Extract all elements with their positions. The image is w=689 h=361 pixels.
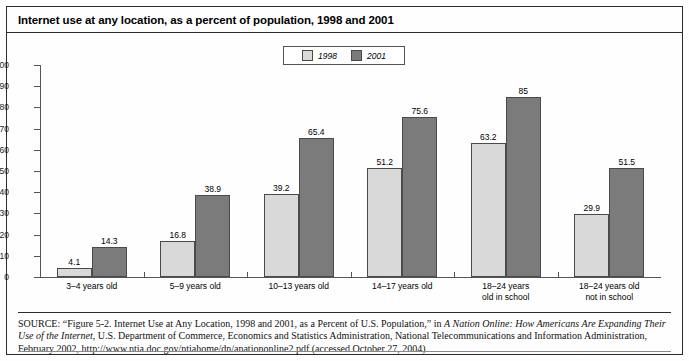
y-axis-tick-label: 30: [0, 208, 9, 218]
bar-value-label: 38.9: [204, 184, 221, 194]
bar-value-label: 63.2: [480, 132, 497, 142]
x-axis-label-5: 18–24 years old in school: [454, 281, 558, 303]
source-label: SOURCE:: [18, 318, 60, 329]
bar-value-label: 65.4: [308, 127, 325, 137]
title-divider: [6, 32, 683, 33]
frame-border-right: [682, 6, 683, 355]
x-axis-label-6: 18–24 years old not in school: [558, 281, 662, 303]
x-axis-group-separator: [144, 272, 145, 277]
legend-item-1998: 1998: [302, 50, 337, 61]
frame-border-top: [6, 6, 683, 7]
chart-legend: 1998 2001: [283, 46, 405, 65]
plot-area: 0102030405060708090100 4.114.316.838.939…: [40, 65, 661, 277]
bar-2001-2: 38.9: [195, 195, 230, 277]
bar-group: 29.951.5: [558, 65, 662, 277]
bar-value-label: 51.5: [618, 157, 635, 167]
bar-1998-5: 63.2: [471, 143, 506, 277]
y-axis-tick-label: 40: [0, 187, 9, 197]
bar-value-label: 16.8: [169, 230, 186, 240]
x-axis-group-separator: [351, 272, 352, 277]
frame-border-left: [6, 6, 7, 355]
bar-2001-1: 14.3: [92, 247, 127, 277]
bar-value-label: 29.9: [583, 203, 600, 213]
y-axis-tick-label: 10: [0, 251, 9, 261]
source-text-part1: “Figure 5-2. Internet Use at Any Locatio…: [60, 318, 444, 329]
legend-item-2001: 2001: [351, 50, 386, 61]
bar-group: 51.275.6: [351, 65, 455, 277]
y-axis-tick-label: 80: [0, 102, 9, 112]
bar-1998-2: 16.8: [160, 241, 195, 277]
bar-1998-1: 4.1: [57, 268, 92, 277]
y-axis-tick-label: 90: [0, 81, 9, 91]
bar-value-label: 85: [519, 86, 528, 96]
x-axis-label-2: 5–9 years old: [144, 281, 248, 292]
source-divider-top: [18, 312, 671, 313]
bar-group: 4.114.3: [40, 65, 144, 277]
y-axis-tick-label: 0: [0, 272, 9, 282]
bar-value-label: 75.6: [411, 106, 428, 116]
bar-1998-4: 51.2: [367, 168, 402, 277]
figure-panel: Internet use at any location, as a perce…: [0, 0, 689, 361]
y-axis-tick: [34, 277, 40, 278]
source-divider-bottom: [18, 351, 671, 352]
bar-1998-6: 29.9: [574, 214, 609, 277]
bar-1998-3: 39.2: [264, 194, 299, 277]
bar-value-label: 14.3: [101, 236, 118, 246]
bar-group: 63.285: [454, 65, 558, 277]
x-axis-label-3: 10–13 years old: [247, 281, 351, 292]
bar-2001-6: 51.5: [609, 168, 644, 277]
bar-2001-3: 65.4: [299, 138, 334, 277]
y-axis-tick-label: 70: [0, 124, 9, 134]
x-axis-label-4: 14–17 years old: [351, 281, 455, 292]
figure-title: Internet use at any location, as a perce…: [18, 14, 394, 26]
x-axis-group-separator: [558, 272, 559, 277]
bar-value-label: 51.2: [376, 157, 393, 167]
bar-group: 39.265.4: [247, 65, 351, 277]
legend-label-2001: 2001: [367, 51, 386, 61]
y-axis-tick-label: 100: [0, 60, 9, 70]
legend-label-1998: 1998: [318, 51, 337, 61]
bar-2001-5: 85: [506, 97, 541, 277]
bar-value-label: 39.2: [273, 183, 290, 193]
bar-2001-4: 75.6: [402, 117, 437, 277]
y-axis-tick-label: 20: [0, 230, 9, 240]
x-axis-label-1: 3–4 years old: [40, 281, 144, 292]
x-axis-group-separator: [247, 272, 248, 277]
legend-swatch-1998: [302, 50, 313, 61]
x-axis-group-separator: [454, 272, 455, 277]
x-axis-line: [40, 277, 661, 278]
bar-value-label: 4.1: [68, 257, 80, 267]
y-axis-tick-label: 60: [0, 145, 9, 155]
source-note: SOURCE: “Figure 5-2. Internet Use at Any…: [18, 318, 673, 355]
bar-group: 16.838.9: [144, 65, 248, 277]
legend-swatch-2001: [351, 50, 362, 61]
y-axis-tick-label: 50: [0, 166, 9, 176]
